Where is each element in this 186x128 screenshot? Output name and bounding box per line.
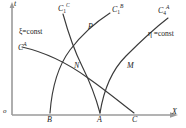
curve-label-c-c: C1C (58, 3, 70, 15)
base-point-label-B: B (47, 116, 52, 124)
curve-label-c-b: C1B (112, 4, 123, 16)
origin-label: o (3, 108, 7, 115)
curve-label-c-b-sup: B (120, 3, 123, 9)
curve-label-c-a4: C4A (158, 5, 169, 17)
diagram-canvas (0, 0, 186, 128)
curve-to-A-xi (63, 14, 100, 113)
curve-label-c-a4-sub: 4 (163, 10, 166, 16)
curve-label-c-c-sub: 1 (63, 8, 66, 14)
curve-label-c-b-sub: 1 (117, 9, 120, 15)
x-axis-label: X (172, 108, 177, 116)
y-axis-label: t (14, 0, 16, 8)
eta-const-label: η =const (148, 30, 174, 38)
characteristic-net-figure: t X o ξ=const η =const CA C1C C1B C4A N … (0, 0, 186, 128)
base-point-label-C: C (132, 116, 137, 124)
curve-label-c-a: CA (18, 42, 27, 52)
curve-label-c-a-sup: A (23, 41, 26, 47)
base-point-label-A: A (97, 116, 102, 124)
curve-label-c-a4-sup: A (166, 4, 169, 10)
point-label-M: M (127, 62, 134, 70)
point-label-N: N (74, 62, 79, 70)
characteristic-curves (22, 13, 168, 113)
xi-const-label: ξ=const (19, 28, 42, 36)
point-label-P: P (88, 23, 93, 31)
curve-label-c-c-sup: C (66, 2, 70, 8)
